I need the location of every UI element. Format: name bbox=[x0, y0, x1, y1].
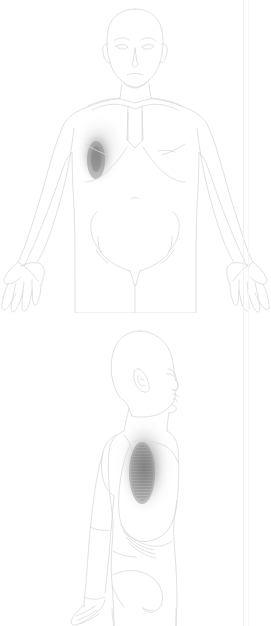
right-arm-inner bbox=[197, 128, 234, 262]
navel bbox=[131, 198, 139, 200]
inguinal-left bbox=[98, 236, 130, 271]
costal-margin-right bbox=[143, 147, 185, 182]
waist-crease bbox=[113, 551, 136, 557]
left-eye bbox=[116, 45, 128, 50]
nose bbox=[132, 48, 138, 67]
left-eyebrow bbox=[114, 38, 129, 41]
right-eyebrow bbox=[141, 38, 156, 41]
ear-icon bbox=[134, 369, 150, 392]
left-ear-icon bbox=[103, 44, 110, 63]
left-hand bbox=[2, 262, 45, 312]
torso-outline bbox=[18, 98, 253, 313]
right-hand bbox=[227, 262, 270, 312]
anterior-body-figure[interactable] bbox=[0, 0, 271, 313]
inguinal-right bbox=[140, 236, 172, 271]
iliac-crest-left bbox=[91, 212, 102, 252]
anterior-pain-region bbox=[74, 114, 126, 186]
anterior-view-panel[interactable] bbox=[0, 0, 271, 313]
body-pain-chart bbox=[0, 0, 271, 626]
right-eye bbox=[142, 45, 154, 50]
left-arm-inner bbox=[37, 128, 74, 262]
lateral-view-panel[interactable] bbox=[0, 313, 271, 626]
hip-joint-line bbox=[112, 585, 124, 607]
pubic-outline bbox=[130, 271, 140, 285]
elbow-line bbox=[90, 527, 110, 530]
rib-line-3 bbox=[129, 543, 156, 558]
iliac-crest-right bbox=[168, 212, 179, 252]
wrist-line bbox=[84, 597, 105, 599]
eye-profile bbox=[167, 374, 173, 376]
buttock-curve bbox=[113, 571, 163, 613]
right-ear-icon bbox=[160, 44, 167, 63]
clavicle-lower bbox=[92, 104, 178, 110]
sternum bbox=[127, 106, 143, 148]
lateral-hand bbox=[71, 600, 105, 625]
clavicles bbox=[88, 99, 182, 106]
pectoral-right bbox=[162, 144, 185, 155]
lateral-body-figure[interactable] bbox=[0, 313, 271, 626]
neck-outline bbox=[120, 84, 151, 98]
forearm-front bbox=[105, 565, 108, 593]
mouth bbox=[127, 74, 143, 76]
